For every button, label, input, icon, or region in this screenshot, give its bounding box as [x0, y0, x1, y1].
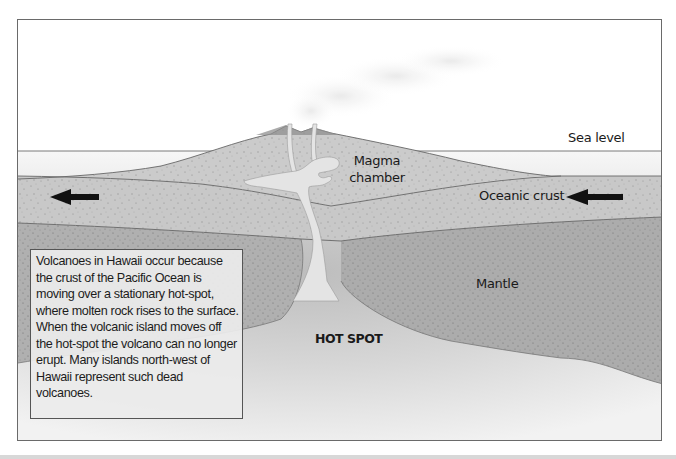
mantle-label: Mantle	[476, 276, 518, 291]
page-divider	[0, 455, 676, 459]
magma-chamber-label: Magma chamber	[347, 152, 407, 186]
caption-box: Volcanoes in Hawaii occur because the cr…	[30, 249, 243, 419]
oceanic-crust-label: Oceanic crust	[479, 188, 564, 203]
hot-spot-label: HOT SPOT	[315, 331, 382, 346]
sea-level-label: Sea level	[568, 130, 625, 145]
